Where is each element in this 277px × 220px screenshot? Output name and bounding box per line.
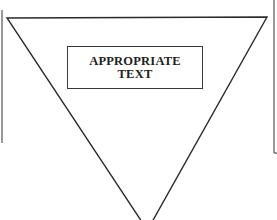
text-label-box: APPROPRIATE TEXT [67,46,203,89]
label-line-2: TEXT [118,68,153,81]
diagram-canvas [0,0,277,220]
label-line-1: APPROPRIATE [89,55,181,68]
